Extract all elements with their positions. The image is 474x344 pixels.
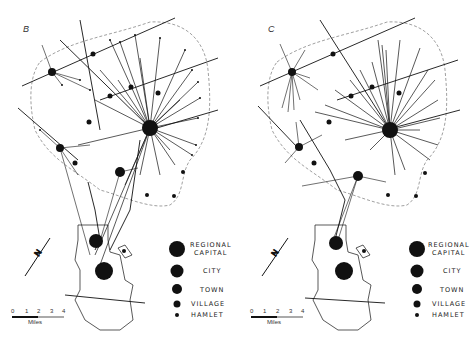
- svg-text:CITY: CITY: [203, 267, 221, 275]
- b-city-node: [89, 234, 103, 248]
- panel-c-map: C: [258, 18, 460, 330]
- svg-text:REGIONAL: REGIONAL: [190, 241, 232, 249]
- svg-text:HAMLET: HAMLET: [191, 311, 224, 319]
- svg-text:3: 3: [289, 308, 293, 314]
- scale-bar-c: 0 1 2 3 4 Miles: [250, 308, 305, 325]
- c-regional-capital-node: [382, 122, 398, 138]
- svg-text:VILLAGE: VILLAGE: [432, 300, 466, 308]
- svg-text:4: 4: [62, 308, 66, 314]
- b-dashed-boundary: [31, 22, 210, 206]
- svg-text:CITY: CITY: [443, 267, 461, 275]
- svg-text:1: 1: [263, 308, 267, 314]
- svg-text:TOWN: TOWN: [199, 286, 224, 294]
- svg-text:1: 1: [25, 308, 29, 314]
- legend-c: REGIONAL CAPITAL CITY TOWN VILLAGE HAMLE…: [409, 241, 470, 319]
- svg-text:CAPITAL: CAPITAL: [194, 249, 227, 257]
- svg-text:REGIONAL: REGIONAL: [428, 241, 470, 249]
- svg-text:3: 3: [50, 308, 54, 314]
- svg-text:CAPITAL: CAPITAL: [432, 249, 465, 257]
- north-arrow-c: N: [262, 238, 288, 276]
- svg-text:HAMLET: HAMLET: [432, 311, 465, 319]
- svg-text:0: 0: [250, 308, 254, 314]
- svg-text:4: 4: [301, 308, 305, 314]
- b-regional-capital-node: [142, 120, 158, 136]
- svg-text:2: 2: [276, 308, 280, 314]
- figure-canvas: B: [0, 0, 474, 344]
- svg-text:Miles: Miles: [28, 319, 42, 325]
- north-arrow-b: N: [25, 238, 50, 276]
- panel-b-map: B: [18, 18, 218, 330]
- panel-b-letter: B: [23, 24, 29, 34]
- svg-text:VILLAGE: VILLAGE: [191, 300, 225, 308]
- b-town-node: [48, 68, 56, 76]
- legend-b: REGIONAL CAPITAL CITY TOWN VILLAGE HAMLE…: [169, 241, 232, 319]
- svg-text:TOWN: TOWN: [439, 286, 464, 294]
- panel-c-letter: C: [268, 24, 275, 34]
- svg-text:2: 2: [37, 308, 41, 314]
- north-label-c: N: [270, 248, 281, 258]
- svg-text:0: 0: [11, 308, 15, 314]
- scale-bar-b: 0 1 2 3 4 Miles: [11, 308, 66, 325]
- svg-text:Miles: Miles: [267, 319, 281, 325]
